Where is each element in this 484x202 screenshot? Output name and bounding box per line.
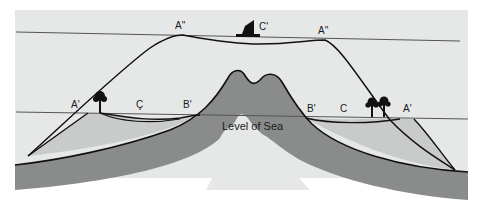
label-lower-right-b1: B'	[307, 103, 316, 114]
label-lower-right-a1: A'	[403, 103, 412, 114]
label-upper-center-c2: C'	[259, 21, 268, 32]
label-lower-left-c: Ç	[136, 99, 143, 110]
label-lower-left-a1: A'	[71, 99, 80, 110]
label-upper-right-a2: A''	[318, 25, 329, 36]
label-lower-right-c: C	[340, 103, 347, 114]
label-sea-level: Level of Sea	[222, 120, 284, 132]
label-upper-left-a2: A''	[175, 20, 186, 31]
atoll-cross-section-diagram: A'' C' A'' A' Ç B' B' C A' Level of Sea	[0, 0, 484, 202]
label-lower-left-b1: B'	[183, 99, 192, 110]
